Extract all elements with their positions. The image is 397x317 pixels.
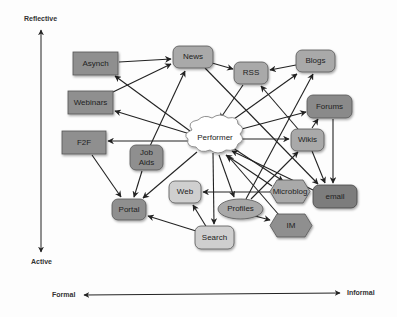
- svg-text:Microblog: Microblog: [273, 187, 308, 196]
- node-email[interactable]: email: [313, 185, 357, 208]
- horizontal-axis: [84, 293, 340, 295]
- node-web[interactable]: Web: [169, 181, 201, 203]
- node-forums[interactable]: Forums: [307, 95, 352, 118]
- svg-text:Search: Search: [202, 233, 227, 242]
- svg-text:Webinars: Webinars: [74, 98, 108, 107]
- svg-text:Blogs: Blogs: [305, 56, 325, 65]
- node-portal[interactable]: Portal: [112, 199, 146, 220]
- node-microblog[interactable]: Microblog: [270, 180, 310, 203]
- svg-text:News: News: [183, 52, 203, 61]
- node-job-aids[interactable]: Job Aids: [130, 145, 163, 170]
- node-webinars[interactable]: Webinars: [68, 91, 113, 114]
- svg-text:Performer: Performer: [197, 133, 233, 142]
- node-im[interactable]: IM: [270, 214, 312, 237]
- svg-text:RSS: RSS: [243, 68, 259, 77]
- node-wikis[interactable]: Wikis: [291, 129, 324, 151]
- svg-text:Forums: Forums: [316, 102, 343, 111]
- axis-label-informal: Informal: [347, 289, 375, 296]
- diagram-canvas: Reflective Active Formal Informal: [0, 0, 397, 317]
- svg-text:Web: Web: [177, 187, 194, 196]
- svg-text:IM: IM: [287, 221, 296, 230]
- svg-text:email: email: [325, 192, 344, 201]
- node-news[interactable]: News: [173, 46, 213, 68]
- svg-text:Profiles: Profiles: [227, 204, 254, 213]
- node-rss[interactable]: RSS: [234, 62, 268, 84]
- axis-label-formal: Formal: [52, 291, 75, 298]
- node-performer[interactable]: Performer: [186, 115, 243, 153]
- axis-label-reflective: Reflective: [24, 15, 57, 22]
- svg-text:F2F: F2F: [77, 138, 91, 147]
- svg-text:Wikis: Wikis: [298, 135, 317, 144]
- svg-text:Job: Job: [140, 148, 153, 157]
- node-asynch[interactable]: Asynch: [73, 52, 118, 75]
- axis-label-active: Active: [31, 258, 52, 265]
- node-f2f[interactable]: F2F: [62, 131, 106, 154]
- svg-text:Portal: Portal: [119, 205, 140, 214]
- node-search[interactable]: Search: [195, 226, 234, 249]
- node-blogs[interactable]: Blogs: [296, 50, 335, 72]
- node-profiles[interactable]: Profiles: [218, 199, 263, 219]
- svg-text:Aids: Aids: [139, 158, 155, 167]
- svg-text:Asynch: Asynch: [82, 59, 108, 68]
